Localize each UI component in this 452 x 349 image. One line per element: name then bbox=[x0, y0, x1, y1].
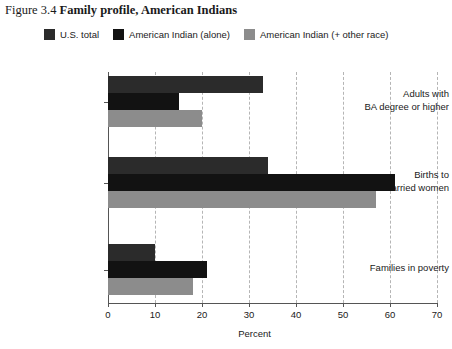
x-tick-label-50: 50 bbox=[328, 309, 358, 320]
x-axis-line bbox=[108, 303, 437, 304]
category-label-2: Families in poverty bbox=[345, 262, 449, 275]
bar-0-2 bbox=[108, 110, 202, 127]
x-tick-70 bbox=[437, 303, 438, 307]
x-tick-label-30: 30 bbox=[234, 309, 264, 320]
category-label-line: Families in poverty bbox=[345, 262, 449, 275]
bar-0-0 bbox=[108, 76, 263, 93]
category-label-0: Adults withBA degree or higher bbox=[345, 88, 449, 113]
x-axis-title-wrap: Percent bbox=[0, 328, 449, 339]
x-tick-label-70: 70 bbox=[422, 309, 452, 320]
bar-2-2 bbox=[108, 278, 193, 295]
x-tick-label-60: 60 bbox=[375, 309, 405, 320]
chart-legend: U.S. total American Indian (alone) Ameri… bbox=[44, 29, 389, 40]
bar-2-0 bbox=[108, 244, 155, 261]
category-label-line: BA degree or higher bbox=[345, 101, 449, 114]
bar-1-2 bbox=[108, 191, 376, 208]
legend-label-american-indian-alone: American Indian (alone) bbox=[129, 29, 230, 40]
x-tick-label-40: 40 bbox=[281, 309, 311, 320]
legend-item-us-total: U.S. total bbox=[44, 29, 99, 40]
legend-label-american-indian-other-race: American Indian (+ other race) bbox=[260, 29, 389, 40]
figure-number: Figure 3.4 bbox=[5, 3, 56, 17]
x-tick-label-20: 20 bbox=[187, 309, 217, 320]
bar-2-1 bbox=[108, 261, 207, 278]
legend-swatch-american-indian-other-race bbox=[244, 29, 255, 40]
bar-0-1 bbox=[108, 93, 179, 110]
legend-item-american-indian-alone: American Indian (alone) bbox=[113, 29, 230, 40]
bar-1-1 bbox=[108, 174, 395, 191]
legend-swatch-us-total bbox=[44, 29, 55, 40]
figure-title-text: Family profile, American Indians bbox=[60, 3, 238, 17]
legend-label-us-total: U.S. total bbox=[60, 29, 99, 40]
x-tick-label-0: 0 bbox=[93, 309, 123, 320]
x-axis-title: Percent bbox=[238, 328, 271, 339]
legend-swatch-american-indian-alone bbox=[113, 29, 124, 40]
figure-title: Figure 3.4 Family profile, American Indi… bbox=[5, 3, 237, 18]
legend-item-american-indian-other-race: American Indian (+ other race) bbox=[244, 29, 389, 40]
x-tick-label-10: 10 bbox=[140, 309, 170, 320]
category-label-line: Adults with bbox=[345, 88, 449, 101]
bar-1-0 bbox=[108, 157, 268, 174]
